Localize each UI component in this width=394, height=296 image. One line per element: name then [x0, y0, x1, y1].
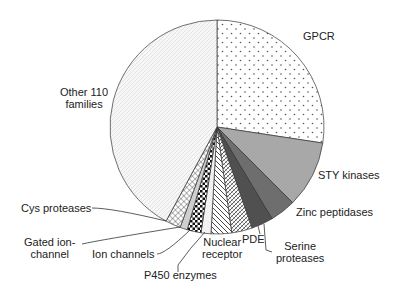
label-nuclear-line2: receptor [202, 248, 242, 260]
label-sty: STY kinases [318, 169, 380, 181]
leader-ion [157, 230, 190, 254]
leader-gated [82, 227, 180, 244]
label-gated-line2: channel [24, 248, 75, 260]
label-cys: Cys proteases [21, 202, 91, 214]
label-other: Other 110 families [60, 86, 108, 110]
label-gated-line1: Gated ion- [24, 236, 75, 248]
label-serine-line2: proteases [276, 252, 324, 264]
label-nuclear-line1: Nuclear [202, 236, 242, 248]
label-other-line1: Other 110 [60, 86, 108, 98]
label-serine-line1: Serine [276, 240, 324, 252]
leader-serine [264, 224, 272, 252]
label-p450: P450 enzymes [144, 269, 217, 281]
label-gpcr: GPCR [303, 30, 335, 42]
label-zinc: Zinc peptidases [296, 206, 373, 218]
label-pde: PDE [242, 233, 265, 245]
label-serine: Serine proteases [276, 240, 324, 264]
label-nuclear: Nuclear receptor [202, 236, 242, 260]
label-gated: Gated ion- channel [24, 236, 75, 260]
label-other-line2: families [60, 98, 108, 110]
leader-p450 [178, 232, 205, 272]
pie-slices [110, 20, 324, 234]
label-ion: Ion channels [92, 248, 154, 260]
